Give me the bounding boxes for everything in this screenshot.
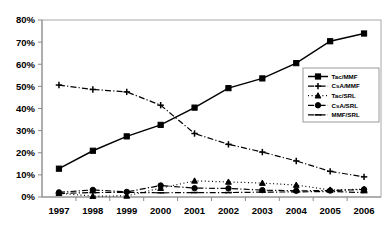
data-point: [226, 186, 231, 191]
data-point: [158, 183, 163, 188]
x-axis-tick-label: 2001: [184, 205, 206, 216]
y-axis-labels: 0%10%20%30%40%50%60%70%80%: [16, 14, 36, 202]
x-axis-tick-label: 1999: [116, 205, 137, 216]
x-axis-tick-label: 2005: [320, 205, 342, 216]
x-axis-tick-label: 2006: [353, 205, 374, 216]
data-point: [361, 31, 366, 36]
legend-entry-label: MMF/SRL: [332, 111, 360, 118]
data-point: [361, 187, 366, 192]
data-point: [124, 134, 129, 139]
data-point: [294, 61, 299, 66]
y-axis-tick-label: 60%: [16, 59, 36, 70]
legend-swatch-marker: [315, 74, 320, 79]
y-axis-tick-label: 10%: [16, 169, 36, 180]
data-point: [192, 105, 197, 110]
legend-entry-label: Tac/MMF: [332, 73, 358, 80]
data-point: [90, 148, 95, 153]
y-axis-tick-label: 70%: [16, 37, 36, 48]
line-chart: 0%10%20%30%40%50%60%70%80% 1997199819992…: [0, 0, 391, 229]
y-axis-tick-label: 50%: [16, 81, 36, 92]
legend-entry-label: CsA/MMF: [332, 82, 360, 89]
x-axis-tick-label: 1997: [48, 205, 69, 216]
legend-entry-label: Tac/SRL: [332, 92, 357, 99]
legend-swatch-marker: [315, 103, 320, 108]
legend-entry-label: CsA/SRL: [332, 102, 359, 109]
x-axis-tick-label: 2004: [286, 205, 308, 216]
x-axis-tick-label: 1998: [82, 205, 103, 216]
data-point: [56, 166, 61, 171]
data-point: [158, 122, 163, 127]
y-axis-tick-label: 40%: [16, 103, 36, 114]
data-point: [260, 76, 265, 81]
y-axis-tick-label: 0%: [21, 191, 35, 202]
x-axis-tick-label: 2000: [150, 205, 171, 216]
chart-legend: Tac/MMFCsA/MMFTac/SRLCsA/SRLMMF/SRL: [303, 68, 379, 122]
x-axis-tick-label: 2003: [252, 205, 273, 216]
data-point: [226, 86, 231, 91]
data-point: [192, 185, 197, 190]
y-axis-tick-label: 30%: [16, 125, 36, 136]
data-point: [327, 188, 332, 193]
data-point: [328, 39, 333, 44]
y-axis-tick-label: 80%: [16, 14, 36, 25]
y-axis-tick-label: 20%: [16, 147, 36, 158]
x-axis-tick-label: 2002: [218, 205, 239, 216]
chart-container: 0%10%20%30%40%50%60%70%80% 1997199819992…: [0, 0, 391, 229]
